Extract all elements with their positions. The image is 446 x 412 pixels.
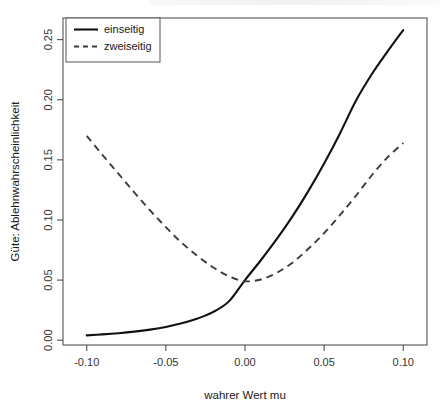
x-tick-label: 0.05: [313, 356, 334, 368]
legend-label-zweiseitig: zweiseitig: [104, 40, 152, 52]
x-tick-label: -0.10: [74, 356, 99, 368]
series-line-einseitig: [87, 30, 404, 335]
y-tick-label: 0.05: [42, 269, 54, 290]
y-axis-title: Güte: Ablehnwahrscheinlichkeit: [9, 101, 21, 262]
top-edge-artifact: [150, 0, 440, 5]
y-tick-label: 0.15: [42, 149, 54, 170]
y-tick-label: 0.10: [42, 209, 54, 230]
y-tick-label: 0.25: [42, 29, 54, 50]
x-tick-label: -0.05: [153, 356, 178, 368]
x-tick-label: 0.00: [234, 356, 255, 368]
x-tick-label: 0.10: [393, 356, 414, 368]
plot-box: [63, 18, 427, 345]
power-function-chart: -0.10-0.050.000.050.100.000.050.100.150.…: [0, 0, 446, 412]
y-tick-label: 0.20: [42, 89, 54, 110]
legend-label-einseitig: einseitig: [104, 23, 144, 35]
series-line-zweiseitig: [87, 136, 404, 282]
y-tick-label: 0.00: [42, 329, 54, 350]
chart-canvas: -0.10-0.050.000.050.100.000.050.100.150.…: [0, 0, 446, 412]
x-axis-title: wahrer Wert mu: [203, 389, 286, 401]
